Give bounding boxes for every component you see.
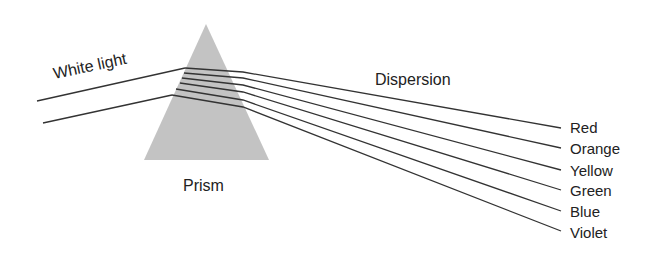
prism-label: Prism — [183, 178, 224, 194]
white-light-ray-bottom — [43, 95, 172, 123]
prism-shape — [144, 24, 269, 160]
spectrum-label-orange: Orange — [570, 141, 620, 156]
spectrum-label-red: Red — [570, 120, 598, 135]
dispersion-diagram — [0, 0, 663, 256]
spectrum-label-blue: Blue — [570, 204, 600, 219]
spectrum-label-yellow: Yellow — [570, 163, 613, 178]
dispersion-label: Dispersion — [375, 72, 451, 88]
spectrum-label-violet: Violet — [570, 225, 607, 240]
spectrum-label-green: Green — [570, 183, 612, 198]
